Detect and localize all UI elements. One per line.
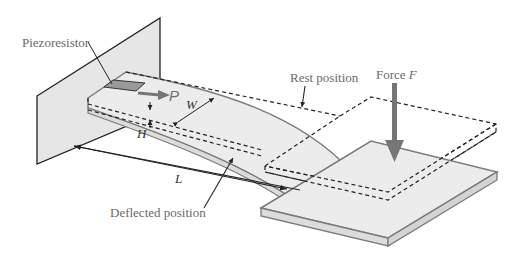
p-arrow xyxy=(138,93,160,95)
deflected-position-label: Deflected position xyxy=(110,206,206,219)
piezoresistor-label: Piezoresistor xyxy=(22,36,89,49)
deflected-position-leader xyxy=(204,158,233,208)
rest-position-leader xyxy=(302,86,305,107)
height-symbol: H xyxy=(137,127,146,140)
force-label: Force F xyxy=(376,68,417,81)
rest-position-label: Rest position xyxy=(290,71,358,84)
length-symbol: L xyxy=(175,172,182,185)
force-symbol: F xyxy=(409,67,417,82)
force-label-text: Force xyxy=(376,67,409,82)
width-symbol: W xyxy=(186,98,197,111)
p-symbol: P xyxy=(169,88,179,103)
